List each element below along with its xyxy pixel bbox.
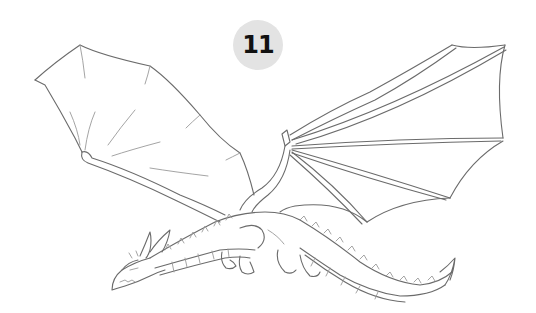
- left-wing: [35, 45, 254, 222]
- dragon-head: [112, 230, 170, 290]
- right-wing: [240, 45, 506, 224]
- dragon-legs: [222, 250, 321, 277]
- dragon-sketch: [0, 0, 536, 313]
- drawing-canvas: 11: [0, 0, 536, 313]
- dragon-body: [150, 212, 455, 302]
